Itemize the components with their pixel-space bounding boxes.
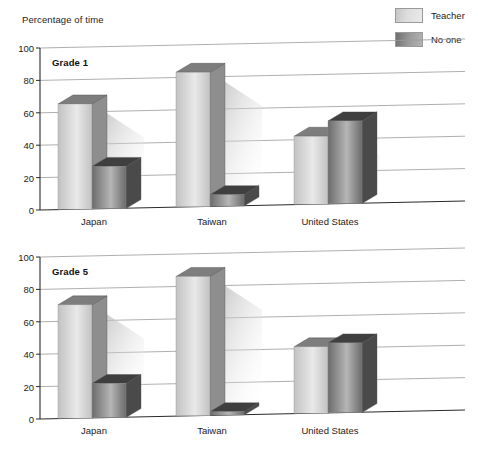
y-axis-tick-label: 60 xyxy=(0,316,34,327)
legend-item-teacher: Teacher xyxy=(395,8,478,22)
plot-area-grade-1 xyxy=(40,46,465,212)
x-axis-category-label: United States xyxy=(301,216,358,227)
panel-title-grade-5: Grade 5 xyxy=(52,266,88,277)
chart-figure: Percentage of time Teacher No one Grade … xyxy=(0,0,478,455)
panel-grade-1: Grade 1 020406080100 JapanTaiwanUnited S… xyxy=(0,36,478,236)
y-axis-title: Percentage of time xyxy=(22,14,104,25)
y-axis-tick-label: 80 xyxy=(0,284,34,295)
y-axis-tick-label: 100 xyxy=(0,252,34,263)
bars-grade-5 xyxy=(40,255,465,421)
panel-title-grade-1: Grade 1 xyxy=(52,57,88,68)
x-axis-category-label: Japan xyxy=(81,216,107,227)
y-axis-tick-label: 0 xyxy=(0,414,34,425)
y-axis-tick-label: 40 xyxy=(0,349,34,360)
panel-grade-5: Grade 5 020406080100 JapanTaiwanUnited S… xyxy=(0,245,478,451)
x-axis-category-label: Taiwan xyxy=(197,216,227,227)
legend-label-teacher: Teacher xyxy=(431,10,465,21)
x-axis-category-label: United States xyxy=(301,425,358,436)
x-axis-category-label: Taiwan xyxy=(197,425,227,436)
y-axis-tick-label: 100 xyxy=(0,43,34,54)
y-axis-tick-label: 80 xyxy=(0,75,34,86)
x-axis-category-label: Japan xyxy=(81,425,107,436)
legend-swatch-teacher xyxy=(395,8,423,23)
y-axis-ticks-grade-1: 020406080100 xyxy=(0,46,34,212)
plot-area-grade-5 xyxy=(40,255,465,421)
y-axis-tick-label: 20 xyxy=(0,172,34,183)
y-axis-tick-label: 60 xyxy=(0,107,34,118)
y-axis-ticks-grade-5: 020406080100 xyxy=(0,255,34,421)
y-axis-tick-label: 20 xyxy=(0,381,34,392)
bars-grade-1 xyxy=(40,46,465,212)
y-axis-tick-label: 40 xyxy=(0,140,34,151)
y-axis-tick-label: 0 xyxy=(0,205,34,216)
